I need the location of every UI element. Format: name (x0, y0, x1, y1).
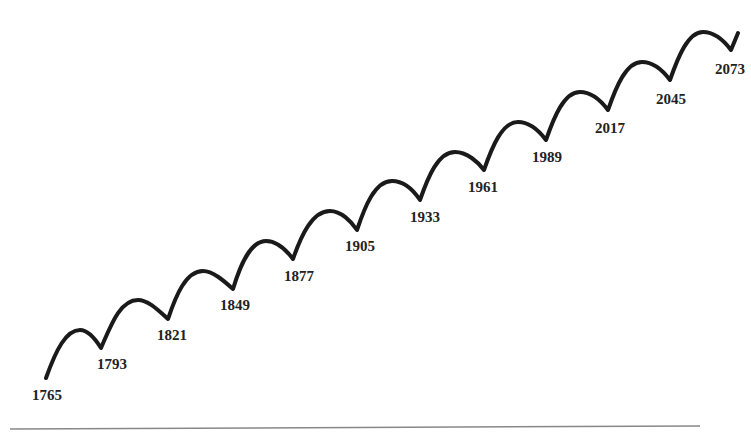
label-1793: 1793 (97, 356, 127, 372)
label-1933: 1933 (410, 209, 440, 225)
label-2045: 2045 (656, 91, 686, 107)
label-1849: 1849 (220, 297, 250, 313)
label-1989: 1989 (532, 149, 562, 165)
baseline (10, 426, 700, 429)
label-1821: 1821 (157, 327, 187, 343)
rising-wave-line (46, 32, 738, 378)
label-1877: 1877 (284, 268, 315, 284)
label-2017: 2017 (595, 120, 626, 136)
label-1765: 1765 (32, 387, 62, 403)
label-1961: 1961 (468, 179, 498, 195)
year-labels: 1765 1793 1821 1849 1877 1905 1933 1961 … (32, 61, 745, 403)
wave-chart: 1765 1793 1821 1849 1877 1905 1933 1961 … (0, 0, 751, 435)
label-2073: 2073 (715, 61, 745, 77)
label-1905: 1905 (345, 238, 375, 254)
